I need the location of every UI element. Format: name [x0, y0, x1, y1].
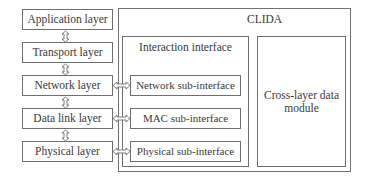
physical-layer-box: Physical layer: [22, 141, 113, 162]
data-link-layer-box: Data link layer: [22, 108, 113, 129]
physical-sub-interface-box: Physical sub-interface: [130, 141, 241, 162]
cross-layer-data-module-label: Cross-layer data module: [262, 89, 341, 115]
application-layer-label: Application layer: [27, 13, 107, 26]
mac-sub-interface-box: MAC sub-interface: [130, 108, 241, 129]
transport-layer-box: Transport layer: [22, 42, 113, 63]
physical-sub-interface-label: Physical sub-interface: [137, 145, 234, 158]
transport-layer-label: Transport layer: [32, 46, 102, 59]
vertical-double-arrow-icon: [62, 31, 69, 42]
network-sub-interface-box: Network sub-interface: [130, 75, 241, 96]
network-layer-label: Network layer: [34, 79, 100, 92]
network-sub-interface-label: Network sub-interface: [136, 79, 235, 92]
cross-layer-data-module-box: Cross-layer data module: [257, 36, 346, 167]
physical-layer-label: Physical layer: [35, 145, 100, 158]
network-layer-box: Network layer: [22, 75, 113, 96]
interaction-interface-title: Interaction interface: [122, 41, 249, 53]
vertical-double-arrow-icon: [62, 130, 69, 141]
application-layer-box: Application layer: [22, 9, 113, 30]
mac-sub-interface-label: MAC sub-interface: [143, 112, 228, 125]
vertical-double-arrow-icon: [62, 64, 69, 75]
data-link-layer-label: Data link layer: [33, 112, 101, 125]
vertical-double-arrow-icon: [62, 97, 69, 108]
clida-title: CLIDA: [247, 13, 282, 25]
